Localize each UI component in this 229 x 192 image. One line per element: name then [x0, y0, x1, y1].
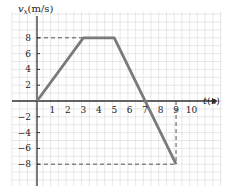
svg-text:8: 8	[25, 33, 31, 43]
velocity-time-chart: 12345678910 8642−2−4−6−8 vx(m/s) t(s)	[0, 0, 229, 192]
svg-text:2: 2	[65, 105, 71, 115]
x-axis-label: t(s)	[203, 95, 220, 106]
svg-text:1: 1	[50, 105, 56, 115]
svg-text:7: 7	[142, 105, 148, 115]
x-tick-labels: 12345678910	[50, 105, 198, 115]
svg-text:5: 5	[111, 105, 117, 115]
svg-text:6: 6	[127, 105, 133, 115]
svg-text:3: 3	[80, 105, 86, 115]
svg-text:6: 6	[25, 49, 31, 59]
svg-text:8: 8	[158, 105, 164, 115]
svg-text:−8: −8	[18, 159, 32, 169]
grid	[12, 12, 222, 186]
svg-text:−6: −6	[18, 143, 32, 153]
svg-text:−2: −2	[18, 112, 31, 122]
svg-text:2: 2	[25, 80, 31, 90]
svg-text:−4: −4	[18, 128, 32, 138]
svg-text:9: 9	[173, 105, 179, 115]
svg-text:10: 10	[186, 105, 198, 115]
svg-text:4: 4	[96, 105, 102, 115]
svg-text:4: 4	[25, 64, 31, 74]
